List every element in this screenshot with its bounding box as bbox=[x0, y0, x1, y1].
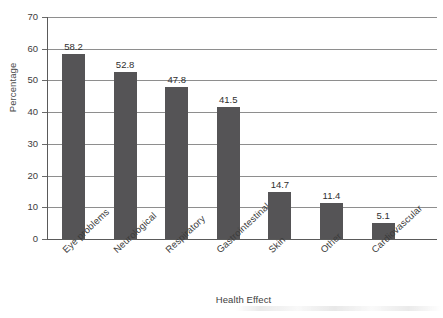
scan-artifact bbox=[236, 306, 441, 311]
x-axis-title: Health Effect bbox=[0, 294, 443, 305]
y-axis-tick-label: 0 bbox=[12, 234, 38, 244]
bar-chart-figure: Percentage 01020304050607058.2Eye proble… bbox=[0, 0, 443, 318]
gridline bbox=[47, 49, 437, 50]
gridline bbox=[47, 112, 437, 113]
y-axis-tick-label: 50 bbox=[12, 75, 38, 85]
gridline bbox=[47, 80, 437, 81]
gridline bbox=[47, 144, 437, 145]
gridline bbox=[47, 176, 437, 177]
y-axis-tick-label: 10 bbox=[12, 202, 38, 212]
bar bbox=[268, 192, 291, 239]
bar bbox=[114, 72, 137, 239]
y-axis-tick-label: 40 bbox=[12, 107, 38, 117]
y-axis-tick-label: 20 bbox=[12, 171, 38, 181]
bar bbox=[62, 54, 85, 239]
bar-value-label: 58.2 bbox=[52, 42, 96, 52]
bar-value-label: 11.4 bbox=[310, 191, 354, 201]
y-axis-tick-label: 70 bbox=[12, 12, 38, 22]
bar-value-label: 41.5 bbox=[206, 95, 250, 105]
bar bbox=[165, 87, 188, 239]
bar-value-label: 47.8 bbox=[155, 75, 199, 85]
plot-area: 01020304050607058.2Eye problems52.8Neuro… bbox=[0, 0, 443, 318]
gridline bbox=[47, 17, 437, 18]
bar-value-label: 52.8 bbox=[103, 60, 147, 70]
y-axis-tick-label: 60 bbox=[12, 44, 38, 54]
bar bbox=[217, 107, 240, 239]
y-axis-line bbox=[47, 17, 48, 240]
x-axis-title-text: Health Effect bbox=[216, 294, 272, 305]
bar-value-label: 14.7 bbox=[258, 180, 302, 190]
y-axis-tick-label: 30 bbox=[12, 139, 38, 149]
